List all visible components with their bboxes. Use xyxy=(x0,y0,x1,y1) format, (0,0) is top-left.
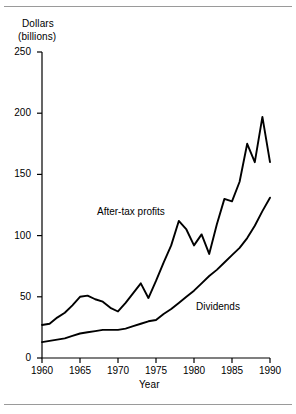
chart-figure: Dollars (billions) Year After-tax profit… xyxy=(0,0,296,414)
axis-spine xyxy=(42,52,270,358)
axes-lines xyxy=(37,52,270,363)
plot-area xyxy=(0,0,296,414)
series-line-after-tax-profits xyxy=(42,117,270,325)
series-line-dividends xyxy=(42,198,270,342)
data-series-lines xyxy=(42,117,270,342)
